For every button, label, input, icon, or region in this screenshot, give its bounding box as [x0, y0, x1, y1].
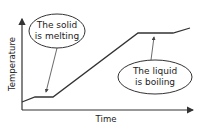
melting-pointer-arrow: [46, 48, 57, 92]
boiling-callout-line1: The liquid: [132, 66, 177, 76]
melting-callout-line2: is melting: [35, 31, 79, 41]
heating-curve-chart: The solid is melting The liquid is boili…: [0, 0, 205, 130]
melting-callout-line1: The solid: [36, 20, 78, 30]
y-axis-label: Temperature: [7, 37, 17, 92]
boiling-pointer-arrow: [151, 37, 154, 60]
x-axis-label: Time: [95, 114, 117, 124]
boiling-callout-line2: is boiling: [135, 77, 175, 87]
